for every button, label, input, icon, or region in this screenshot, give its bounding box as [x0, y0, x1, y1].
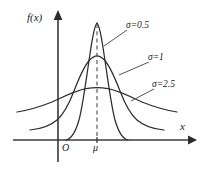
x-axis-arrow-icon — [188, 136, 197, 145]
leader-line-sigma-0-5 — [104, 30, 127, 46]
annotation-sigma-1: σ=1 — [148, 53, 164, 63]
origin-label: O — [62, 143, 69, 153]
leader-line-sigma-1 — [119, 62, 149, 75]
x-axis-label: x — [180, 121, 185, 132]
leader-line-sigma-2-5 — [131, 89, 154, 101]
normal-distribution-figure: f(x) x O μ σ=0.5 σ=1 σ=2.5 — [0, 0, 201, 179]
annotation-sigma-0-5: σ=0.5 — [126, 21, 149, 31]
figure-canvas — [0, 0, 201, 179]
mean-label: μ — [93, 143, 98, 153]
x-axis-group — [13, 136, 197, 145]
y-axis-label: f(x) — [27, 12, 42, 23]
annotation-sigma-2-5: σ=2.5 — [152, 80, 175, 90]
y-axis-arrow-icon — [54, 10, 63, 20]
